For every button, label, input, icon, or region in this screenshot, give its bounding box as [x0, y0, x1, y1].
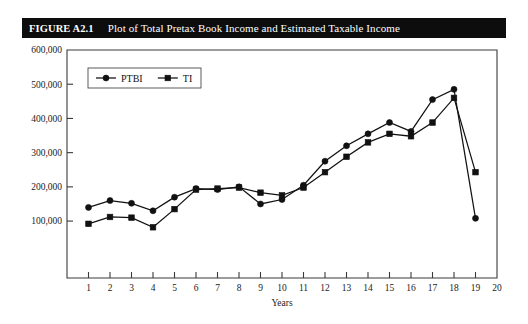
data-series-group: [86, 86, 479, 230]
data-point-ti-19: [473, 169, 479, 175]
y-tick-label-200000: 200,000: [31, 182, 62, 192]
x-tick-label-5: 5: [172, 283, 177, 293]
data-point-ti-2: [107, 214, 113, 220]
data-point-ptbi-14: [365, 131, 371, 137]
data-point-ti-11: [301, 185, 307, 191]
line-chart: 100,000200,000300,000400,000500,000600,0…: [0, 38, 528, 324]
data-point-ptbi-5: [172, 194, 178, 200]
x-tick-label-20: 20: [492, 283, 502, 293]
x-tick-label-8: 8: [237, 283, 242, 293]
data-point-ti-17: [430, 120, 436, 126]
data-point-ptbi-19: [473, 215, 479, 221]
data-point-ti-13: [344, 154, 350, 160]
x-tick-label-11: 11: [299, 283, 308, 293]
x-tick-label-3: 3: [129, 283, 134, 293]
x-tick-label-12: 12: [320, 283, 330, 293]
y-tick-label-100000: 100,000: [31, 216, 62, 226]
x-tick-label-16: 16: [406, 283, 416, 293]
x-tick-label-2: 2: [108, 283, 113, 293]
data-point-ti-18: [451, 95, 457, 101]
y-tick-label-400000: 400,000: [31, 114, 62, 124]
data-point-ti-5: [172, 206, 178, 212]
legend-label-ti: TI: [183, 73, 192, 84]
data-point-ti-7: [215, 186, 221, 192]
chart-legend: PTBITI: [88, 68, 201, 88]
legend-label-ptbi: PTBI: [121, 73, 143, 84]
y-tick-label-300000: 300,000: [31, 148, 62, 158]
data-point-ti-3: [129, 215, 135, 221]
x-axis-title: Years: [271, 298, 293, 308]
data-point-ti-8: [236, 185, 242, 191]
x-tick-label-10: 10: [277, 283, 287, 293]
data-point-ptbi-2: [107, 198, 113, 204]
data-point-ti-15: [387, 131, 393, 137]
figure-caption-bar: FIGURE A2.1 Plot of Total Pretax Book In…: [22, 18, 506, 38]
x-tick-label-1: 1: [86, 283, 91, 293]
figure-number: FIGURE A2.1: [29, 23, 94, 34]
x-tick-label-6: 6: [194, 283, 199, 293]
y-tick-label-600000: 600,000: [31, 45, 62, 55]
legend-marker-ti: [165, 75, 171, 81]
data-point-ti-4: [150, 224, 156, 230]
data-point-ti-6: [193, 187, 199, 193]
data-point-ptbi-9: [258, 201, 264, 207]
data-point-ti-16: [408, 133, 414, 139]
data-point-ptbi-1: [86, 204, 92, 210]
series-line-ti: [89, 98, 476, 227]
x-tick-label-18: 18: [449, 283, 459, 293]
x-tick-label-17: 17: [428, 283, 438, 293]
legend-marker-ptbi: [103, 75, 109, 81]
data-point-ptbi-18: [451, 86, 457, 92]
data-point-ptbi-13: [344, 143, 350, 149]
data-point-ti-9: [258, 190, 264, 196]
data-point-ptbi-15: [387, 120, 393, 126]
x-axis: 1234567891011121314151617181920: [86, 272, 502, 293]
series-ptbi: [86, 86, 479, 221]
data-point-ptbi-3: [129, 200, 135, 206]
x-tick-label-4: 4: [151, 283, 156, 293]
data-point-ptbi-4: [150, 208, 156, 214]
data-point-ptbi-17: [430, 97, 436, 103]
chart-container: 100,000200,000300,000400,000500,000600,0…: [0, 38, 528, 324]
data-point-ptbi-12: [322, 158, 328, 164]
x-tick-label-7: 7: [215, 283, 220, 293]
series-ti: [86, 95, 479, 230]
x-tick-label-19: 19: [471, 283, 481, 293]
y-tick-label-500000: 500,000: [31, 80, 62, 90]
data-point-ti-12: [322, 169, 328, 175]
data-point-ti-14: [365, 140, 371, 146]
data-point-ti-1: [86, 221, 92, 227]
data-point-ti-10: [279, 193, 285, 199]
x-tick-label-15: 15: [385, 283, 395, 293]
x-tick-label-13: 13: [342, 283, 352, 293]
x-tick-label-9: 9: [258, 283, 263, 293]
x-tick-label-14: 14: [363, 283, 373, 293]
figure-title: Plot of Total Pretax Book Income and Est…: [108, 22, 400, 34]
